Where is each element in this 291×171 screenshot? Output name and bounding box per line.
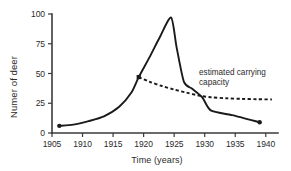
data-point-marker-dot	[57, 124, 61, 128]
x-axis-tick-label: 1905	[43, 140, 62, 149]
x-axis-title: Time (years)	[131, 155, 182, 165]
data-point-marker-square	[137, 75, 141, 79]
annotation-estimated-carrying-capacity: estimated carrying capacity	[199, 68, 266, 87]
deer-population-chart: 0255075100 19051910191519201925193019351…	[0, 0, 291, 171]
x-axis-tick-label: 1910	[73, 140, 92, 149]
annotation-line-1: estimated carrying	[199, 68, 266, 78]
y-axis-tick-label: 25	[0, 99, 45, 108]
x-axis-tick-label: 1940	[257, 140, 276, 149]
y-axis-title: Numer of deer	[8, 56, 19, 118]
x-axis-tick-label: 1935	[226, 140, 245, 149]
x-axis-tick-label: 1915	[104, 140, 123, 149]
y-axis-tick-label: 0	[0, 129, 45, 138]
y-axis-tick-label: 50	[0, 69, 45, 78]
x-axis-tick-label: 1930	[195, 140, 214, 149]
data-point-marker-dot	[257, 120, 261, 124]
y-axis-tick-label: 100	[0, 10, 45, 19]
y-axis-tick-label: 75	[0, 40, 45, 49]
x-axis-tick-label: 1925	[165, 140, 184, 149]
annotation-line-2: capacity	[199, 78, 266, 88]
x-axis-tick-label: 1920	[134, 140, 153, 149]
